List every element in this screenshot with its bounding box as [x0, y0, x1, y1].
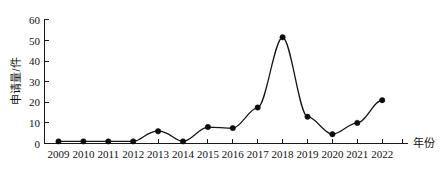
- x-tick-label-2021: 2021: [346, 148, 368, 160]
- data-point-2019: [305, 114, 310, 119]
- y-tick-label-0: 0: [35, 138, 41, 150]
- data-point-2020: [330, 132, 335, 137]
- x-axis-title: 年份: [413, 136, 435, 149]
- data-point-2010: [81, 139, 86, 144]
- data-point-2018: [280, 35, 285, 40]
- data-point-2012: [131, 139, 136, 144]
- y-tick-label-30: 30: [29, 76, 41, 88]
- chart-canvas: 0 10 20 30 40 50 60 2: [0, 0, 441, 177]
- x-tick-label-2015: 2015: [197, 148, 220, 160]
- data-point-2017: [255, 105, 260, 110]
- x-tick-label-2020: 2020: [321, 148, 344, 160]
- data-point-2016: [230, 125, 235, 130]
- data-point-2009: [56, 139, 61, 144]
- data-point-2014: [180, 139, 185, 144]
- x-tick-label-2011: 2011: [98, 148, 120, 160]
- x-tick-label-2014: 2014: [172, 148, 195, 160]
- y-tick-group: [45, 20, 50, 144]
- data-point-2021: [355, 120, 360, 125]
- x-tick-label-2017: 2017: [247, 148, 270, 160]
- data-point-2022: [380, 98, 385, 103]
- y-tick-labels: 0 10 20 30 40 50 60: [29, 14, 41, 150]
- x-tick-labels: 2009 2010 2011 2012 2013 2014 2015 2016 …: [48, 148, 394, 160]
- x-tick-label-2009: 2009: [48, 148, 71, 160]
- y-tick-label-40: 40: [29, 55, 41, 67]
- y-tick-label-20: 20: [29, 96, 41, 108]
- line-chart-figure: 0 10 20 30 40 50 60 2: [0, 0, 441, 177]
- x-tick-label-2019: 2019: [297, 148, 320, 160]
- x-tick-label-2016: 2016: [222, 148, 245, 160]
- x-tick-label-2018: 2018: [272, 148, 295, 160]
- y-tick-label-60: 60: [29, 14, 41, 26]
- x-tick-label-2012: 2012: [122, 148, 144, 160]
- axis-group: [45, 19, 409, 144]
- data-point-2013: [155, 129, 160, 134]
- data-point-2011: [106, 139, 111, 144]
- x-tick-label-2013: 2013: [147, 148, 170, 160]
- y-axis-title: 申请量/件: [10, 57, 22, 104]
- x-tick-label-2022: 2022: [371, 148, 393, 160]
- data-point-2015: [205, 124, 210, 129]
- y-tick-label-50: 50: [29, 35, 41, 47]
- y-tick-label-10: 10: [29, 117, 41, 129]
- series-line-applications: [59, 37, 383, 141]
- x-tick-label-2010: 2010: [72, 148, 95, 160]
